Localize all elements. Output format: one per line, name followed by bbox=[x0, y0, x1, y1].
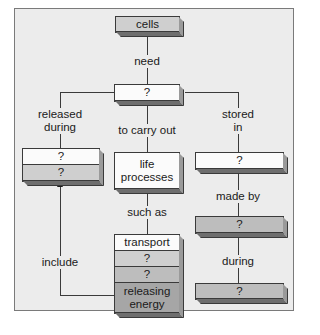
line-center-horizontal-right bbox=[185, 92, 238, 93]
link-stored-in: stored in bbox=[216, 108, 260, 134]
node-stack-releasing-energy: releasing energy bbox=[115, 283, 179, 313]
node-right-bottom-label: ? bbox=[196, 284, 283, 299]
node-right-bottom: ? bbox=[195, 283, 284, 300]
line-center-horizontal-left bbox=[60, 92, 114, 93]
node-right-middle: ? bbox=[195, 216, 284, 234]
node-left-bottom: ? bbox=[23, 165, 99, 181]
node-stack-q1: ? bbox=[115, 251, 179, 267]
link-to-carry-out: to carry out bbox=[116, 124, 178, 137]
node-stack-transport: transport bbox=[115, 235, 179, 251]
link-released-during-text: released during bbox=[30, 108, 90, 134]
node-right-top: ? bbox=[195, 152, 284, 170]
node-left-stack: ? ? bbox=[22, 148, 100, 182]
line-include-horizontal bbox=[60, 295, 114, 296]
link-made-by: made by bbox=[214, 190, 262, 203]
node-stack-q2: ? bbox=[115, 267, 179, 283]
link-released-during: released during bbox=[28, 108, 92, 134]
node-right-top-label: ? bbox=[196, 153, 283, 169]
link-stored-in-text: stored in bbox=[218, 108, 258, 134]
node-cells-label: cells bbox=[116, 17, 179, 32]
link-such-as: such as bbox=[125, 206, 169, 219]
link-during: during bbox=[220, 255, 256, 268]
link-include: include bbox=[40, 256, 80, 269]
node-life-process-stack: transport ? ? releasing energy bbox=[114, 234, 180, 314]
node-center-label: ? bbox=[115, 85, 179, 101]
node-cells: cells bbox=[115, 16, 180, 33]
node-life-processes-label: life processes bbox=[115, 153, 179, 189]
node-right-middle-label: ? bbox=[196, 217, 283, 233]
node-left-top: ? bbox=[23, 149, 99, 165]
link-need: need bbox=[132, 55, 162, 68]
node-life-processes: life processes bbox=[114, 152, 180, 190]
node-center-unknown: ? bbox=[114, 84, 180, 102]
line-include-vertical bbox=[60, 186, 61, 296]
